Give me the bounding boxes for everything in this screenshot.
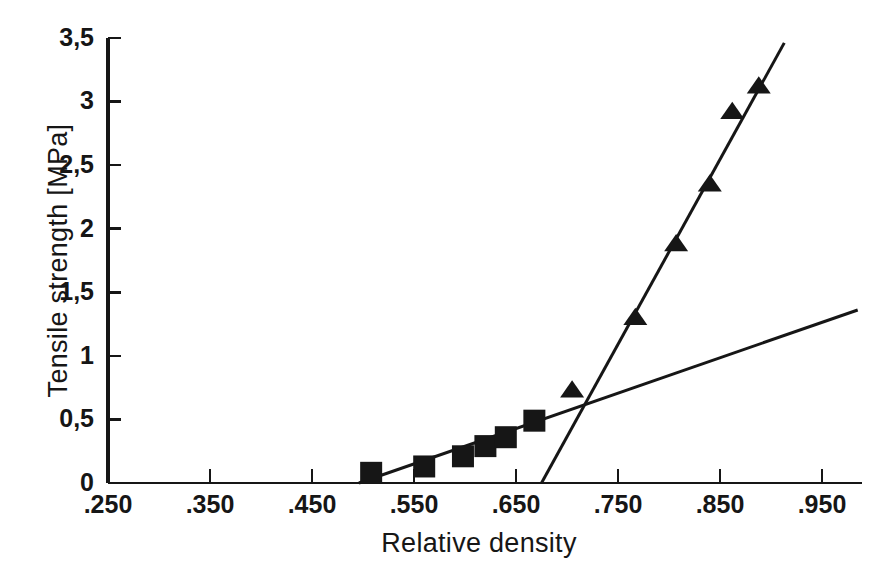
square-data-marker (523, 410, 545, 432)
triangle-data-marker (560, 380, 584, 397)
plot-area (0, 0, 893, 587)
y-axis-ticks (108, 38, 121, 420)
triangle-data-marker (720, 102, 744, 119)
triangle-data-marker (664, 234, 688, 251)
data-markers-group (360, 76, 771, 484)
square-data-marker (360, 462, 382, 484)
triangle-data-marker (698, 174, 722, 191)
triangle-data-marker (747, 76, 771, 93)
tensile-strength-vs-relative-density-chart: Tensile strength [MPa] Relative density … (0, 0, 893, 587)
square-data-marker (474, 435, 496, 457)
x-axis-ticks (210, 469, 822, 483)
square-data-marker (413, 455, 435, 477)
fit-lines-group (359, 43, 858, 483)
steep-fit-line (542, 43, 785, 483)
triangle-data-marker (623, 308, 647, 325)
square-data-marker (495, 426, 517, 448)
square-data-marker (452, 445, 474, 467)
